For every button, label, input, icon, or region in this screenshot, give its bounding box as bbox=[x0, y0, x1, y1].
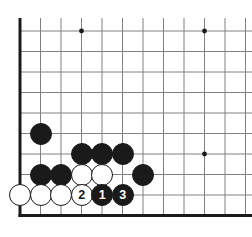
stone-black[interactable] bbox=[112, 143, 134, 165]
stone-move-number: 1 bbox=[99, 189, 106, 202]
stone-black[interactable] bbox=[50, 164, 72, 186]
stone-move-number: 3 bbox=[119, 189, 126, 202]
stone-black-move-3[interactable]: 3 bbox=[112, 184, 134, 206]
star-point bbox=[202, 152, 207, 157]
stone-white-move-2[interactable]: 2 bbox=[71, 184, 93, 206]
stone-white[interactable] bbox=[71, 164, 93, 186]
stone-black[interactable] bbox=[71, 143, 93, 165]
stone-move-number: 2 bbox=[78, 189, 85, 202]
stone-white[interactable] bbox=[50, 184, 72, 206]
stone-black-move-1[interactable]: 1 bbox=[91, 184, 113, 206]
stone-white[interactable] bbox=[91, 164, 113, 186]
go-board-diagram: 213 bbox=[0, 0, 252, 237]
stone-black[interactable] bbox=[30, 123, 52, 145]
stone-black[interactable] bbox=[30, 164, 52, 186]
star-point bbox=[79, 29, 84, 34]
star-point bbox=[202, 29, 207, 34]
stone-black[interactable] bbox=[91, 143, 113, 165]
stone-black[interactable] bbox=[132, 164, 154, 186]
stone-white[interactable] bbox=[9, 184, 31, 206]
stone-white[interactable] bbox=[30, 184, 52, 206]
